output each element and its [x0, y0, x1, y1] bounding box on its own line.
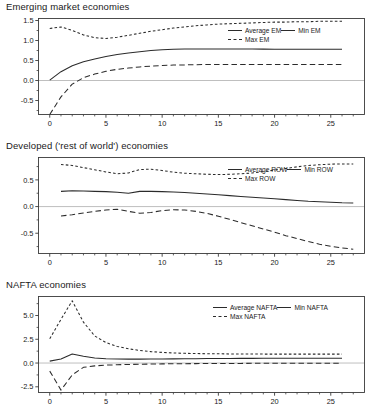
svg-text:0.5: 0.5 — [23, 56, 33, 65]
legend-entry-average: Average EM — [228, 27, 281, 34]
legend-label: Min ROW — [304, 166, 333, 173]
legend-label: Average NAFTA — [230, 304, 277, 311]
svg-text:0.0: 0.0 — [23, 76, 33, 85]
svg-text:20: 20 — [270, 397, 278, 406]
legend-label: Average EM — [245, 27, 281, 34]
plot-area: -2.50.02.55.00510152025 — [0, 278, 377, 416]
chart-legend: Average EM Min EM Max EM — [228, 26, 321, 44]
legend-line-dashed-icon — [213, 314, 227, 319]
legend-label: Max EM — [245, 36, 269, 43]
svg-text:20: 20 — [270, 119, 278, 128]
chart-legend: Average NAFTA Min NAFTA Max NAFTA — [213, 303, 328, 321]
svg-text:0.0: 0.0 — [23, 359, 33, 368]
chart-panel-developed-row: Developed ('rest of world') economies -0… — [0, 139, 377, 277]
svg-text:0: 0 — [48, 258, 52, 267]
svg-text:0.5: 0.5 — [23, 176, 33, 185]
svg-text:25: 25 — [327, 397, 335, 406]
legend-line-solid-icon — [281, 28, 295, 33]
legend-line-solid-icon — [277, 305, 291, 310]
svg-text:20: 20 — [270, 258, 278, 267]
legend-line-solid-icon — [228, 167, 242, 172]
svg-text:10: 10 — [158, 119, 166, 128]
legend-entry-min: Min ROW — [287, 166, 333, 173]
svg-text:15: 15 — [214, 258, 222, 267]
svg-text:1.5: 1.5 — [23, 16, 33, 25]
legend-label: Average ROW — [245, 166, 287, 173]
legend-entry-max: Max NAFTA — [213, 313, 265, 320]
chart-panel-emerging-market: Emerging market economies -0.50.00.51.01… — [0, 0, 377, 138]
legend-entry-average: Average ROW — [228, 166, 287, 173]
legend-entry-max: Max EM — [228, 36, 269, 43]
legend-entry-min: Min EM — [281, 27, 320, 34]
svg-text:25: 25 — [327, 258, 335, 267]
legend-line-dashed-icon — [228, 176, 242, 181]
legend-entry-average: Average NAFTA — [213, 304, 277, 311]
svg-text:0: 0 — [48, 397, 52, 406]
svg-text:0: 0 — [48, 119, 52, 128]
legend-line-solid-icon — [213, 305, 227, 310]
chart-panel-nafta: NAFTA economies -2.50.02.55.00510152025 … — [0, 278, 377, 416]
svg-text:-0.5: -0.5 — [21, 96, 34, 105]
svg-text:5.0: 5.0 — [23, 311, 33, 320]
plot-area: -0.50.00.51.01.50510152025 — [0, 0, 377, 138]
svg-text:15: 15 — [214, 119, 222, 128]
svg-text:25: 25 — [327, 119, 335, 128]
svg-text:5: 5 — [104, 119, 108, 128]
svg-text:10: 10 — [158, 397, 166, 406]
figure-three-panel-impulse-responses: Emerging market economies -0.50.00.51.01… — [0, 0, 377, 416]
chart-legend: Average ROW Min ROW Max ROW — [228, 165, 333, 183]
svg-text:0.0: 0.0 — [23, 202, 33, 211]
legend-line-dashed-icon — [228, 37, 242, 42]
legend-label: Max ROW — [245, 175, 275, 182]
svg-text:-0.5: -0.5 — [21, 229, 34, 238]
legend-label: Min NAFTA — [294, 304, 328, 311]
svg-text:5: 5 — [104, 397, 108, 406]
legend-entry-min: Min NAFTA — [277, 304, 328, 311]
svg-text:5: 5 — [104, 258, 108, 267]
legend-label: Min EM — [298, 27, 320, 34]
svg-text:-2.5: -2.5 — [21, 382, 34, 391]
legend-line-solid-icon — [287, 167, 301, 172]
svg-text:15: 15 — [214, 397, 222, 406]
svg-text:10: 10 — [158, 258, 166, 267]
svg-text:2.5: 2.5 — [23, 335, 33, 344]
legend-line-solid-icon — [228, 28, 242, 33]
plot-area: -0.50.00.50510152025 — [0, 139, 377, 277]
legend-label: Max NAFTA — [230, 313, 265, 320]
svg-text:1.0: 1.0 — [23, 36, 33, 45]
legend-entry-max: Max ROW — [228, 175, 275, 182]
